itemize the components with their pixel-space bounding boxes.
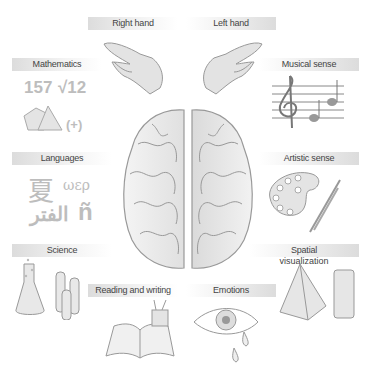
lang-arabic: الفتر — [30, 202, 69, 226]
math-root: √12 — [58, 78, 86, 98]
open-book-icon — [102, 300, 178, 360]
left-hand-icon — [196, 36, 266, 96]
right-hand-icon — [100, 36, 170, 96]
lang-spanish: ñ — [78, 198, 93, 226]
science-flask-icon — [14, 258, 84, 320]
math-plus: (+) — [66, 117, 82, 132]
pyramid-cylinder-icon — [278, 262, 358, 322]
spatial-line1: Spatial — [291, 245, 317, 255]
label-right-hand: Right hand — [88, 17, 178, 30]
math-number: 157 — [24, 78, 52, 98]
label-languages: Languages — [12, 152, 112, 165]
music-staff-icon — [270, 74, 346, 130]
label-emotions: Emotions — [186, 284, 276, 297]
geometry-shapes-icon — [18, 102, 68, 134]
label-science: Science — [12, 244, 112, 257]
lang-greek: ωερ — [63, 177, 90, 193]
paint-palette-icon — [262, 168, 342, 234]
label-reading-writing: Reading and writing — [88, 284, 178, 297]
label-musical-sense: Musical sense — [259, 58, 359, 71]
crying-eye-icon — [192, 304, 262, 364]
label-mathematics: Mathematics — [12, 58, 102, 71]
label-left-hand: Left hand — [186, 17, 276, 30]
brain-icon — [118, 104, 258, 274]
label-artistic-sense: Artistic sense — [259, 152, 359, 165]
